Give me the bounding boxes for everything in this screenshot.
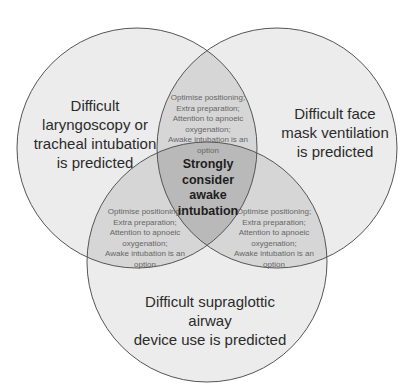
label-line: is predicted (30, 153, 160, 172)
label-line: Awake intubation is an (104, 249, 186, 260)
label-left-circle: Difficult laryngoscopy or tracheal intub… (30, 96, 160, 172)
label-line: Difficult (30, 96, 160, 115)
label-line: Attention to apnoeic (167, 114, 249, 125)
label-line: Extra preparation; (104, 218, 186, 229)
label-line: Extra preparation; (167, 104, 249, 115)
label-line: laryngoscopy or (30, 115, 160, 134)
label-overlap-center: Strongly consider awake intubation (167, 157, 249, 219)
label-line: option (233, 260, 315, 271)
label-right-circle: Difficult face mask ventilation is predi… (280, 104, 390, 161)
label-line: device use is predicted (130, 330, 290, 349)
label-line: option (104, 260, 186, 271)
label-line: Attention to apnoeic (233, 228, 315, 239)
label-line: mask ventilation (280, 123, 390, 142)
label-line: tracheal intubation (30, 134, 160, 153)
label-line: Extra preparation; (233, 218, 315, 229)
label-line: Difficult supraglottic airway (130, 292, 290, 330)
label-line: Awake intubation is an (233, 249, 315, 260)
label-line: intubation (167, 204, 249, 220)
label-line: option (167, 146, 249, 157)
label-overlap-top: Optimise positioning; Extra preparation;… (167, 93, 249, 156)
label-line: awake (167, 188, 249, 204)
label-line: consider (167, 173, 249, 189)
label-line: Difficult face (280, 104, 390, 123)
label-line: Strongly (167, 157, 249, 173)
label-line: is predicted (280, 142, 390, 161)
label-line: Optimise positioning; (167, 93, 249, 104)
label-line: oxygenation; (167, 125, 249, 136)
label-bottom-circle: Difficult supraglottic airway device use… (130, 292, 290, 349)
label-line: oxygenation; (233, 239, 315, 250)
label-line: oxygenation; (104, 239, 186, 250)
label-line: Awake intubation is an (167, 135, 249, 146)
label-line: Attention to apnoeic (104, 228, 186, 239)
